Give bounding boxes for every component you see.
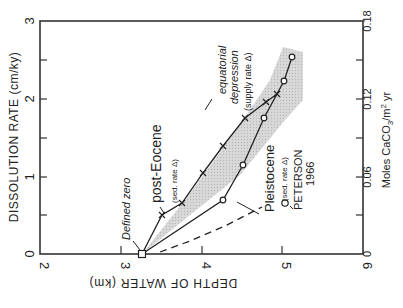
y-axis-label: DISSOLUTION RATE (cm/ky) xyxy=(7,52,21,222)
peterson-label: PETERSON xyxy=(292,149,304,210)
svg-text:5: 5 xyxy=(279,262,294,269)
svg-text:3: 3 xyxy=(118,262,133,269)
x-tick-labels: 2 3 4 5 6 xyxy=(37,262,375,269)
chart: 0 1 2 3 DISSOLUTION RATE (cm/ky) 2 3 4 5… xyxy=(0,0,403,308)
svg-text:2: 2 xyxy=(22,95,37,102)
y-tick-labels: 0 1 2 3 xyxy=(22,17,37,257)
svg-text:6: 6 xyxy=(360,262,375,269)
y2-axis-label: Moles CaCO3/m2 yr xyxy=(379,92,395,189)
svg-text:0.18: 0.18 xyxy=(361,10,373,31)
plot-frame xyxy=(40,21,363,254)
y2-axis-ticks xyxy=(356,60,363,215)
svg-text:3: 3 xyxy=(22,17,37,24)
peterson-year-label: 1966 xyxy=(304,162,316,186)
svg-text:4: 4 xyxy=(199,262,214,269)
svg-text:1: 1 xyxy=(22,173,37,180)
y-axis-ticks xyxy=(40,60,47,215)
pleistocene-label: Pleistocene xyxy=(262,145,277,212)
x-axis-label: DEPTH OF WATER (km) xyxy=(89,276,238,290)
svg-text:2: 2 xyxy=(37,262,52,269)
svg-text:0: 0 xyxy=(22,250,37,257)
equatorial-label: equatorial xyxy=(216,45,228,94)
svg-text:0: 0 xyxy=(361,251,373,257)
defined-zero-marker xyxy=(139,251,146,258)
svg-text:0.06: 0.06 xyxy=(361,166,373,187)
pleistocene-sublabel: (sed. rate Δ) xyxy=(280,157,289,201)
depression-label: depression xyxy=(228,50,240,104)
svg-text:0.12: 0.12 xyxy=(361,88,373,109)
defined-zero-label: Defined zero xyxy=(120,178,132,240)
supply-rate-label: (supply rate Δ) xyxy=(243,52,253,111)
post-eocene-sublabel: (sed. rate Δ) xyxy=(170,159,179,203)
post-eocene-label: post-Eocene xyxy=(148,124,164,203)
